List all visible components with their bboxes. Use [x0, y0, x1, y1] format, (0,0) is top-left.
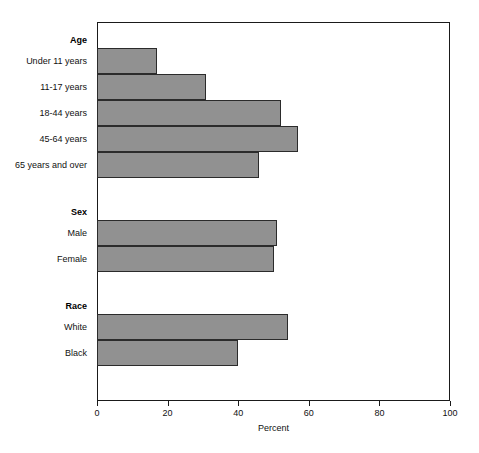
category-labels-layer: AgeUnder 11 years11-17 years18-44 years4… — [0, 22, 92, 401]
bars-layer — [97, 22, 450, 401]
category-label: White — [64, 322, 87, 332]
category-label: 65 years and over — [15, 160, 87, 170]
category-label: 18-44 years — [39, 108, 87, 118]
category-label: 11-17 years — [40, 82, 87, 92]
x-tick-label: 40 — [233, 408, 243, 418]
bar — [97, 74, 206, 100]
x-tick-label: 0 — [94, 408, 99, 418]
x-tick-mark — [97, 401, 98, 406]
chart-figure: AgeUnder 11 years11-17 years18-44 years4… — [0, 0, 479, 453]
x-tick-mark — [309, 401, 310, 406]
x-tick-label: 20 — [163, 408, 173, 418]
bar — [97, 220, 277, 246]
group-header-race: Race — [65, 301, 87, 311]
x-tick-label: 80 — [374, 408, 384, 418]
x-tick-mark — [379, 401, 380, 406]
x-tick-label: 100 — [442, 408, 457, 418]
group-header-age: Age — [70, 35, 87, 45]
bar — [97, 246, 274, 272]
x-tick-mark — [238, 401, 239, 406]
x-tick-label: 60 — [304, 408, 314, 418]
category-label: 45-64 years — [39, 134, 87, 144]
bar — [97, 340, 238, 366]
x-axis-title: Percent — [97, 423, 450, 433]
group-header-sex: Sex — [71, 207, 87, 217]
category-label: Black — [65, 348, 87, 358]
bar — [97, 314, 288, 340]
category-label: Male — [67, 228, 87, 238]
bar — [97, 126, 298, 152]
x-axis: Percent 020406080100 — [97, 401, 450, 453]
bar — [97, 152, 259, 178]
bar — [97, 100, 281, 126]
x-tick-mark — [450, 401, 451, 406]
x-tick-mark — [168, 401, 169, 406]
category-label: Under 11 years — [26, 56, 87, 66]
bar — [97, 48, 157, 74]
category-label: Female — [57, 254, 87, 264]
